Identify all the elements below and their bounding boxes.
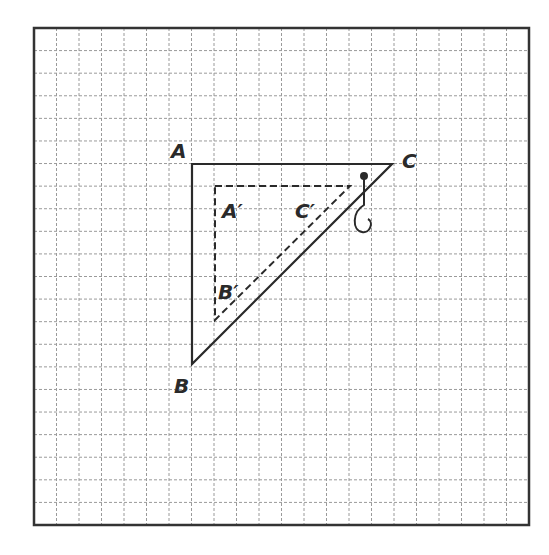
label-c-prime: C′ (295, 199, 316, 223)
label-a-prime: A′ (220, 199, 243, 223)
label-a: A (169, 139, 186, 163)
triangle-abc (192, 164, 392, 364)
label-c: C (402, 149, 417, 173)
label-b-prime: B′ (218, 280, 239, 304)
dilation-diagram: A B C A′ B′ C′ (0, 0, 549, 555)
label-b: B (174, 374, 189, 398)
compass-icon (355, 173, 371, 232)
grid-lines (34, 28, 529, 525)
